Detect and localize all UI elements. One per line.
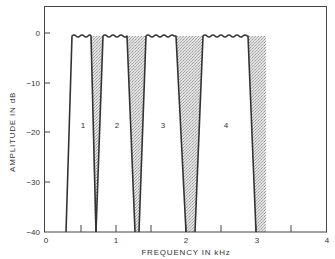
filter-curve-1 [66,35,96,232]
y-tick-labels: 0 −10 −20 −30 −40 [26,29,40,237]
y-tick-label: −20 [26,128,40,137]
x-tick-labels: 0 1 2 3 4 [44,236,330,245]
band-label-2: 2 [115,121,120,130]
x-tick-label: 4 [325,236,330,245]
band-labels: 1 2 3 4 [81,121,229,130]
filter-curve-4 [195,35,256,232]
band-label-4: 4 [224,121,229,130]
y-tick-label: −30 [26,178,40,187]
x-tick-label: 2 [184,236,189,245]
y-tick-label: −40 [26,228,40,237]
shaded-transition-regions [91,36,266,232]
band-label-1: 1 [81,121,86,130]
y-axis-title: AMPLITUDE IN dB [8,92,17,172]
band-label-3: 3 [161,121,166,130]
shaded-region-4-end [248,36,266,232]
x-tick-label: 3 [255,236,260,245]
filter-response-chart: 0 −10 −20 −30 −40 0 1 2 3 4 FREQUENCY IN… [0,0,335,259]
y-tick-label: 0 [36,29,41,38]
x-axis-title: FREQUENCY IN kHz [141,248,230,257]
y-tick-label: −10 [26,79,40,88]
x-tick-label: 0 [44,236,49,245]
x-tick-label: 1 [114,236,119,245]
